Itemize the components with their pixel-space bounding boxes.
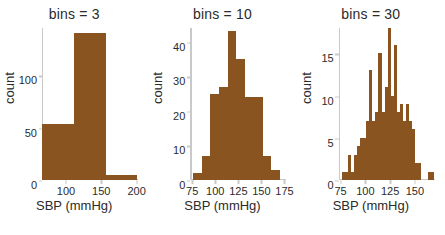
x-tick-mark <box>340 180 341 184</box>
panel-bins-3: bins = 3 count 050100100150200 SBP (mmHg… <box>0 0 148 235</box>
x-tick-mark <box>192 180 193 184</box>
x-tick-label: 75 <box>335 185 347 197</box>
x-tick-label: 125 <box>229 185 247 197</box>
x-tick-label: 100 <box>206 185 224 197</box>
x-tick-label: 150 <box>252 185 270 197</box>
y-tick-label: 40 <box>173 41 190 53</box>
histogram-bar <box>202 156 211 180</box>
x-tick-mark <box>365 180 366 184</box>
x-tick-mark <box>414 180 415 184</box>
panel-title: bins = 10 <box>148 6 296 22</box>
x-tick-label: 125 <box>381 185 399 197</box>
y-axis-label: count <box>2 72 17 104</box>
x-tick-mark <box>390 180 391 184</box>
panel-bins-10: bins = 10 count 01020304075100125150175 … <box>148 0 296 235</box>
x-axis-label: SBP (mmHg) <box>297 198 445 213</box>
histogram-bar <box>271 170 280 180</box>
histogram-bar <box>236 59 245 180</box>
plot-area-1: 01020304075100125150175 <box>190 28 286 180</box>
y-tick-label: 20 <box>173 110 190 122</box>
histogram-bar <box>245 97 254 180</box>
panel-title: bins = 3 <box>0 6 148 22</box>
x-tick-label: 175 <box>275 185 293 197</box>
x-axis-label: SBP (mmHg) <box>0 198 148 213</box>
histogram-bar <box>263 156 272 180</box>
bars-group-1 <box>190 28 286 180</box>
panel-title: bins = 30 <box>297 6 445 22</box>
y-axis-label: count <box>150 72 165 104</box>
y-tick-label: 10 <box>321 95 338 107</box>
x-tick-mark <box>215 180 216 184</box>
histogram-bar <box>418 163 421 180</box>
plot-area-2: 05101575100125150 <box>339 28 435 180</box>
histogram-bar <box>254 97 263 180</box>
x-tick-label: 100 <box>57 185 75 197</box>
x-tick-mark <box>238 180 239 184</box>
histogram-figure: bins = 3 count 050100100150200 SBP (mmHg… <box>0 0 445 235</box>
x-axis-label: SBP (mmHg) <box>148 198 296 213</box>
y-tick-label: 50 <box>25 127 42 139</box>
y-tick-label: 0 <box>31 179 42 191</box>
x-tick-label: 150 <box>406 185 424 197</box>
panel-bins-30: bins = 30 count 05101575100125150 SBP (m… <box>297 0 445 235</box>
histogram-bar <box>210 94 219 180</box>
x-tick-label: 75 <box>186 185 198 197</box>
histogram-bar <box>106 175 138 180</box>
histogram-bar <box>228 31 237 180</box>
y-tick-label: 15 <box>321 52 338 64</box>
y-axis-label: count <box>299 72 314 104</box>
x-tick-mark <box>261 180 262 184</box>
histogram-bar <box>42 124 74 180</box>
bars-group-0 <box>42 28 138 180</box>
histogram-bar <box>74 33 106 180</box>
x-tick-mark <box>136 180 137 184</box>
x-tick-label: 100 <box>356 185 374 197</box>
y-tick-label: 100 <box>19 74 42 86</box>
x-tick-mark <box>66 180 67 184</box>
bars-group-2 <box>339 28 435 180</box>
x-tick-label: 150 <box>92 185 110 197</box>
histogram-bar <box>219 87 228 180</box>
y-tick-label: 5 <box>328 137 339 149</box>
x-tick-label: 200 <box>127 185 145 197</box>
x-tick-mark <box>101 180 102 184</box>
x-tick-mark <box>284 180 285 184</box>
histogram-bar <box>431 172 434 180</box>
y-tick-label: 30 <box>173 75 190 87</box>
histogram-bar <box>193 173 202 180</box>
y-tick-label: 10 <box>173 144 190 156</box>
plot-area-0: 050100100150200 <box>42 28 138 180</box>
